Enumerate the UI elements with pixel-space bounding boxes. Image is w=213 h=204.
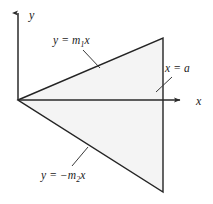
label-lower-line: y = −m2x	[40, 169, 86, 184]
label-vertical-line: x = a	[164, 62, 190, 74]
triangular-region	[18, 38, 163, 192]
x-axis-label: x	[195, 94, 202, 108]
figure-container: y x y = m1x y = −m2x x = a	[0, 0, 213, 204]
leader-line-lower	[72, 147, 88, 166]
math-diagram: y x y = m1x y = −m2x x = a	[0, 0, 213, 204]
leader-line-upper	[83, 50, 100, 68]
label-vertical-main: x = a	[164, 62, 190, 74]
label-upper-main: y = m	[52, 34, 80, 47]
label-lower-main: y = −m	[40, 169, 76, 182]
label-upper-line: y = m1x	[52, 34, 90, 49]
label-lower-tail: x	[79, 169, 86, 181]
y-axis-label: y	[28, 8, 35, 22]
label-upper-tail: x	[83, 34, 90, 46]
